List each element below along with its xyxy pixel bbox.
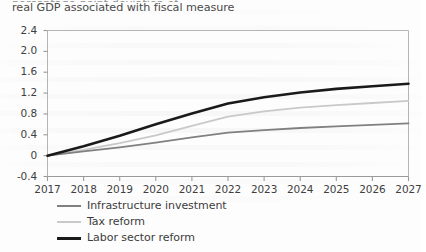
legend-item[interactable]: Infrastructure investment xyxy=(57,198,397,214)
x-axis-tick-label: 2017 xyxy=(28,183,68,195)
series-line-infrastructure-investment xyxy=(48,123,409,155)
y-axis-tick-label: 0.4 xyxy=(11,128,37,140)
x-axis-tick-label: 2026 xyxy=(352,183,392,195)
y-axis-tick-label: 0.8 xyxy=(11,107,37,119)
legend-item-label: Labor sector reform xyxy=(87,232,195,244)
x-axis-tick-label: 2020 xyxy=(136,183,176,195)
y-axis-tick-label: 2.4 xyxy=(11,24,37,36)
series-line-tax-reform xyxy=(48,101,409,156)
legend-color-swatch xyxy=(57,205,81,207)
y-axis-tick-label: 0 xyxy=(11,149,37,161)
y-axis-tick-label: -0.4 xyxy=(11,170,37,182)
x-axis-tick-label: 2022 xyxy=(208,183,248,195)
legend-item[interactable]: Tax reform xyxy=(57,214,397,230)
legend-item-label: Tax reform xyxy=(87,216,145,228)
x-axis-tick-label: 2019 xyxy=(100,183,140,195)
legend-color-swatch xyxy=(57,237,81,240)
legend-item-label: Infrastructure investment xyxy=(87,200,227,212)
x-axis-tick-label: 2024 xyxy=(280,183,320,195)
legend-item[interactable]: Labor sector reform xyxy=(57,230,397,246)
x-axis-tick-label: 2021 xyxy=(172,183,212,195)
x-axis-tick-label: 2023 xyxy=(244,183,284,195)
x-axis-tick-label: 2025 xyxy=(316,183,356,195)
y-axis-tick-label: 2.0 xyxy=(11,44,37,56)
x-axis-tick-label: 2027 xyxy=(389,183,426,195)
x-axis-tick-label: 2018 xyxy=(64,183,104,195)
y-axis-tick-label: 1.6 xyxy=(11,65,37,77)
series-line-labor-sector-reform xyxy=(48,84,409,156)
legend-color-swatch xyxy=(57,221,81,223)
chart-legend: Infrastructure investmentTax reformLabor… xyxy=(57,198,397,246)
y-axis-tick-label: 1.2 xyxy=(11,86,37,98)
